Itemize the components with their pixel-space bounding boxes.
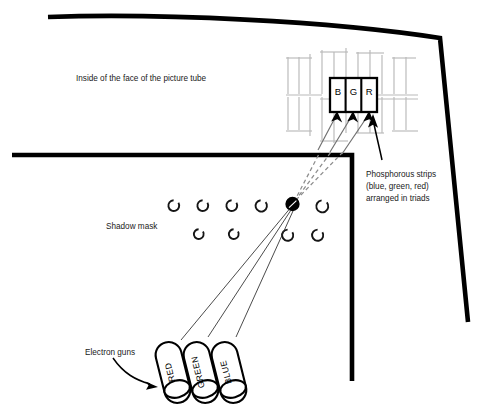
phosphor-note: Phosphorous strips (blue, green, red) ar… [366, 170, 436, 203]
mask-hole [226, 200, 237, 211]
phosphor-strip-label-blue: B [335, 86, 341, 97]
shadow-mask-label: Shadow mask [106, 222, 158, 231]
electron-guns-label: Electron guns [85, 348, 135, 357]
shadow-mask-holes [168, 198, 328, 241]
mask-hole [168, 200, 179, 211]
mask-hole [194, 229, 204, 239]
electron-gun-group: RED GREEN BLUE [153, 339, 249, 405]
dashed-beams [294, 152, 343, 202]
mask-hole [312, 230, 323, 241]
mask-hole [256, 200, 267, 211]
picture-tube-diagram: B G R [0, 0, 483, 420]
tube-face-label: Inside of the face of the picture tube [76, 74, 207, 83]
phosphor-strip-label-red: R [366, 86, 373, 97]
mask-hole [316, 200, 328, 212]
phosphor-note-line-1: Phosphorous strips [366, 170, 436, 179]
phosphor-strip-label-green: G [350, 86, 357, 97]
mask-hole [197, 200, 208, 211]
diagram-root: B G R [0, 0, 483, 420]
phosphor-note-line-3: arranged in triads [366, 194, 430, 203]
mask-hole [229, 229, 239, 239]
phosphor-note-line-2: (blue, green, red) [366, 182, 429, 191]
phosphor-strip-group: B G R [330, 78, 377, 112]
electron-guns-callout-arrowhead [146, 382, 159, 390]
electron-guns-callout-line [113, 358, 150, 384]
phosphor-callout-line [374, 124, 382, 160]
